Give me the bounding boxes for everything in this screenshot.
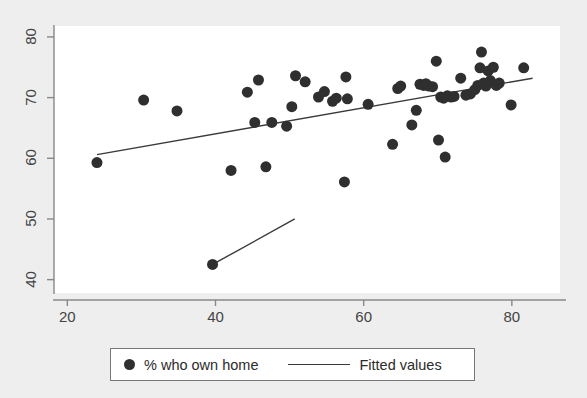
scatter-point <box>319 86 330 97</box>
scatter-point <box>260 161 271 172</box>
chart-legend: % who own home Fitted values <box>110 348 475 381</box>
scatter-point <box>253 75 264 86</box>
scatter-point <box>342 93 353 104</box>
legend-label-fitted-values: Fitted values <box>359 357 441 373</box>
scatter-point <box>242 87 253 98</box>
y-tick-label-80: 80 <box>22 23 39 49</box>
scatter-point <box>506 99 517 110</box>
scatter-point <box>290 70 301 81</box>
scatter-point <box>395 81 406 92</box>
fitted-line-1 <box>213 219 295 265</box>
scatter-point <box>300 76 311 87</box>
legend-line-icon <box>288 364 350 365</box>
scatter-point <box>427 81 438 92</box>
scatter-point <box>387 139 398 150</box>
scatter-point <box>340 71 351 82</box>
plot-area <box>54 26 560 293</box>
scatter-point <box>138 95 149 106</box>
y-tick-label-50: 50 <box>22 205 39 231</box>
scatter-point <box>207 259 218 270</box>
scatter-point <box>286 101 297 112</box>
scatter-point <box>363 99 374 110</box>
scatter-point <box>331 93 342 104</box>
scatter-point <box>171 105 182 116</box>
y-tick-label-70: 70 <box>22 84 39 110</box>
scatter-point <box>339 176 350 187</box>
scatter-point <box>91 157 102 168</box>
scatter-point <box>455 73 466 84</box>
x-tick-label-20: 20 <box>52 308 82 325</box>
x-tick-label-80: 80 <box>497 308 527 325</box>
legend-marker-icon <box>124 359 135 370</box>
scatter-point <box>518 62 529 73</box>
scatter-point <box>476 47 487 58</box>
scatter-point <box>411 105 422 116</box>
scatter-point <box>249 117 260 128</box>
scatter-points-group <box>91 47 529 270</box>
legend-entry-fitted-values[interactable]: Fitted values <box>288 349 441 380</box>
scatter-point <box>449 91 460 102</box>
x-tick-label-40: 40 <box>201 308 231 325</box>
scatter-point <box>266 117 277 128</box>
plot-canvas <box>54 26 560 293</box>
scatter-point <box>281 121 292 132</box>
scatter-point <box>431 56 442 67</box>
scatter-plot-figure: 4050607080 20406080 % who own home Fitte… <box>0 0 587 398</box>
y-tick-label-40: 40 <box>22 266 39 292</box>
scatter-point <box>440 152 451 163</box>
scatter-point <box>226 165 237 176</box>
scatter-point <box>406 119 417 130</box>
legend-label-own-home: % who own home <box>144 357 258 373</box>
x-tick-label-60: 60 <box>349 308 379 325</box>
fitted-lines-group <box>97 78 533 264</box>
legend-entry-own-home[interactable]: % who own home <box>124 349 258 380</box>
scatter-point <box>494 78 505 89</box>
y-tick-label-60: 60 <box>22 145 39 171</box>
scatter-point <box>433 135 444 146</box>
scatter-point <box>488 62 499 73</box>
